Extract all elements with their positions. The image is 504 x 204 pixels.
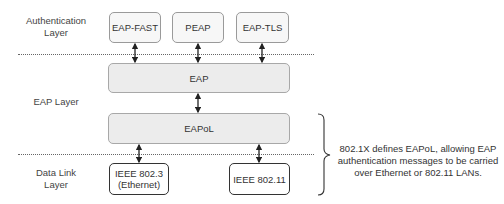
curly-brace-icon (318, 114, 330, 195)
annotation-text: 802.1X defines EAPoL, allowing EAP authe… (333, 143, 503, 179)
annotation-line: authentication messages to be carried (333, 155, 503, 167)
annotation-line: over Ethernet or 802.11 LANs. (333, 167, 503, 179)
annotation-line: 802.1X defines EAPoL, allowing EAP (333, 143, 503, 155)
